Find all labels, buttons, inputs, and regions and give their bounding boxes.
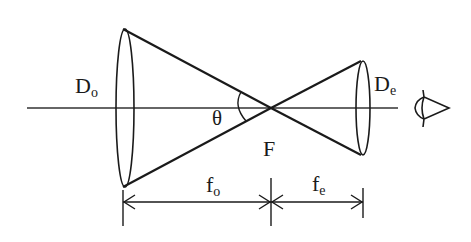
label-focal-point: F <box>263 136 275 161</box>
telescope-diagram: Do De θ F fo fe <box>0 0 471 242</box>
angle-arc <box>238 92 246 121</box>
eyepiece-ray-bottom <box>271 108 361 155</box>
eyepiece-ray-top <box>271 61 361 108</box>
label-eyepiece-diameter: De <box>374 71 396 98</box>
objective-ray-top <box>123 29 271 108</box>
label-objective-focal-length: fo <box>206 172 220 199</box>
label-eyepiece-focal-length: fe <box>312 171 326 198</box>
eye-icon <box>415 90 449 127</box>
objective-ray-bottom <box>123 108 271 187</box>
label-angle-theta: θ <box>212 106 222 130</box>
label-objective-diameter: Do <box>75 73 98 100</box>
